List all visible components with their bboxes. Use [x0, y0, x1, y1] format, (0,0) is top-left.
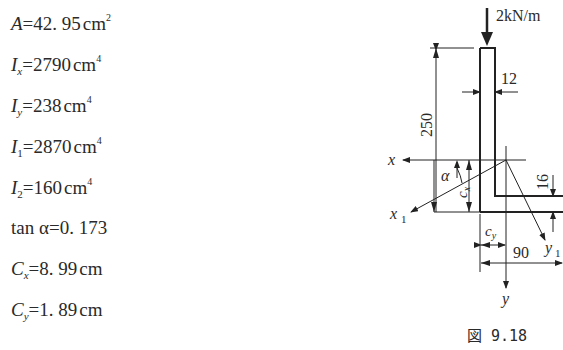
load-label: 2kN/m	[496, 7, 541, 24]
figure-caption: 図 9.18	[467, 327, 527, 345]
axis-y1-label: y	[543, 239, 553, 257]
dim-thickness-vertical: 12	[501, 70, 517, 87]
dim-width-label: 90	[513, 244, 529, 261]
angle-alpha-label: α	[441, 167, 450, 184]
axis-y1-sub: 1	[555, 247, 561, 259]
axis-x1-label: x	[389, 205, 397, 222]
axis-x1-sub: 1	[401, 213, 407, 225]
dim-height-label: 250	[418, 113, 435, 137]
dim-thickness-horizontal: 16	[534, 174, 551, 190]
axis-x-label: x	[387, 151, 395, 168]
angle-section-diagram: 2kN/m 250 12 16 x y x 1 y 1 α cx cy 90	[0, 0, 563, 350]
axis-y-label: y	[500, 290, 510, 308]
load-arrow-icon	[481, 8, 493, 46]
cy-label: cy	[485, 223, 497, 241]
cx-label: cx	[454, 186, 472, 198]
